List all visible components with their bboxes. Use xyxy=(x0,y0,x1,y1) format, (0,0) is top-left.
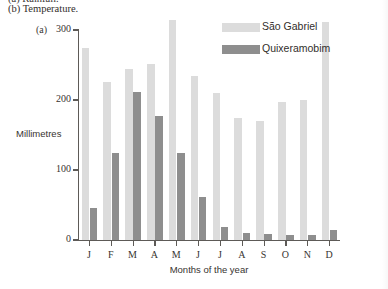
x-tick-label: D xyxy=(318,249,340,260)
legend-swatch-sao-gabriel xyxy=(222,23,260,32)
bar-m-series0 xyxy=(169,20,177,241)
bar-o-series1 xyxy=(286,235,294,240)
y-tick-label: 0 xyxy=(0,233,71,244)
x-tick xyxy=(329,241,330,246)
y-tick-label-wrap: 100 xyxy=(0,163,71,174)
bar-m-series0 xyxy=(125,69,133,241)
bar-f-series0 xyxy=(103,82,111,240)
bar-a-series1 xyxy=(243,233,251,240)
x-tick xyxy=(307,241,308,246)
y-tick-label: 200 xyxy=(0,93,71,104)
bar-n-series0 xyxy=(300,100,308,240)
bar-m-series1 xyxy=(177,153,185,240)
bar-s-series0 xyxy=(256,121,264,240)
bar-s-series1 xyxy=(264,234,272,240)
bar-j-series0 xyxy=(191,76,199,240)
bar-a-series0 xyxy=(234,118,242,241)
x-tick xyxy=(133,241,134,246)
x-tick-label: J xyxy=(187,249,209,260)
y-tick-label-wrap: 300 xyxy=(0,23,71,34)
x-tick-label: F xyxy=(100,249,122,260)
figure-page: (a) Rainfall. (b) Temperature. (a) 01002… xyxy=(0,0,388,289)
x-tick-label: J xyxy=(209,249,231,260)
x-tick xyxy=(264,241,265,246)
x-tick xyxy=(198,241,199,246)
x-tick-label: S xyxy=(253,249,275,260)
x-axis-title: Months of the year xyxy=(78,264,340,275)
bars-area xyxy=(78,30,340,240)
x-axis-line xyxy=(78,240,340,241)
y-tick-label-wrap: 200 xyxy=(0,93,71,104)
legend-label-sao-gabriel: São Gabriel xyxy=(262,20,317,32)
page-edge-shading xyxy=(382,0,388,289)
y-tick-label: 300 xyxy=(0,23,71,34)
bar-o-series0 xyxy=(278,102,286,240)
x-tick xyxy=(285,241,286,246)
legend-swatch-quixeramobim xyxy=(222,45,260,54)
y-tick-label: 100 xyxy=(0,163,71,174)
x-tick xyxy=(154,241,155,246)
x-tick-label: A xyxy=(144,249,166,260)
bar-j-series1 xyxy=(90,208,98,240)
x-tick-label: M xyxy=(122,249,144,260)
legend-label-quixeramobim: Quixeramobim xyxy=(262,42,330,54)
bar-m-series1 xyxy=(133,92,141,240)
x-tick-label: O xyxy=(275,249,297,260)
bar-d-series1 xyxy=(330,230,338,240)
bar-n-series1 xyxy=(308,235,316,240)
x-tick xyxy=(111,241,112,246)
x-tick xyxy=(89,241,90,246)
x-tick-label: A xyxy=(231,249,253,260)
x-tick-label: M xyxy=(165,249,187,260)
bar-a-series1 xyxy=(155,116,163,240)
bar-j-series0 xyxy=(82,48,90,241)
bar-j-series0 xyxy=(213,93,221,240)
bar-f-series1 xyxy=(112,153,120,241)
x-tick-label: N xyxy=(296,249,318,260)
bar-d-series0 xyxy=(322,22,330,240)
bar-j-series1 xyxy=(221,227,229,240)
x-tick-label: J xyxy=(78,249,100,260)
x-tick xyxy=(220,241,221,246)
x-tick xyxy=(242,241,243,246)
bar-j-series1 xyxy=(199,197,207,240)
y-axis-title: Millimetres xyxy=(16,128,61,139)
bar-a-series0 xyxy=(147,64,155,240)
x-tick xyxy=(176,241,177,246)
y-tick-label-wrap: 0 xyxy=(0,233,71,244)
